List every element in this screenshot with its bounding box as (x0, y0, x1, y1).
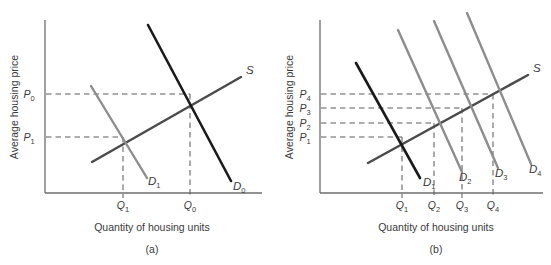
panel-b-tick-p1: P1 (299, 131, 310, 146)
panel-b-tick-p4: P4 (299, 88, 310, 103)
panel-a-y-axis-title: Average housing price (8, 55, 20, 159)
panel-b-label-demand-d1: D1 (423, 176, 435, 191)
panel-a-tick-q1: Q1 (117, 199, 129, 214)
panel-b-demand-curve-d2 (398, 30, 462, 172)
panel-a-caption: (a) (146, 243, 159, 255)
panel-a-tick-p1: P1 (23, 131, 34, 146)
panel-b-tick-q3: Q3 (456, 199, 468, 214)
panel-b-tick-q4: Q4 (487, 199, 499, 214)
panel-a-x-axis-title: Quantity of housing units (94, 221, 210, 233)
panel-b-label-demand-d3: D3 (495, 167, 507, 182)
panel-b-x-axis-title: Quantity of housing units (378, 221, 494, 233)
panel-b-tick-q2: Q2 (428, 199, 440, 214)
panel-b-y-axis-title: Average housing price (283, 55, 295, 159)
panel-b-tick-p2: P2 (299, 117, 310, 132)
panel-a-label-supply: S (246, 64, 254, 76)
panel-a: S D0 D1 P0 P1 Q1 Q0 Average housing pric… (0, 0, 275, 265)
panel-b-caption: (b) (430, 243, 443, 255)
supply-demand-figure: S D0 D1 P0 P1 Q1 Q0 Average housing pric… (0, 0, 551, 265)
panel-b-tick-q1: Q1 (396, 199, 408, 214)
panel-b: S D1 D2 D3 D4 P4 P3 P2 P1 Q1 (275, 0, 551, 265)
panel-b-demand-curve-d3 (434, 21, 498, 168)
panel-a-tick-q0: Q0 (184, 199, 196, 214)
panel-b-supply-curve-s (368, 75, 528, 163)
panel-b-demand-curve-d4 (467, 13, 531, 164)
panel-a-supply-curve-s (92, 77, 241, 162)
panel-a-label-demand-d1: D1 (148, 175, 160, 190)
panel-b-label-demand-d4: D4 (529, 163, 541, 178)
panel-b-label-supply: S (533, 62, 541, 74)
panel-b-tick-p3: P3 (299, 102, 310, 117)
panel-a-demand-curve-d0 (148, 25, 231, 181)
panel-b-demand-curve-d1 (356, 63, 420, 178)
panel-a-demand-curve-d1 (91, 86, 147, 178)
panel-b-label-demand-d2: D2 (459, 171, 471, 186)
panel-a-tick-p0: P0 (23, 88, 34, 103)
